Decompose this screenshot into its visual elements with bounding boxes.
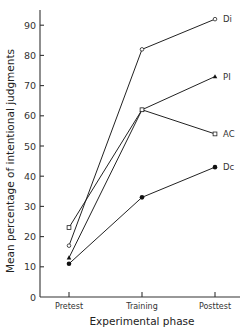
y-tick-label: 30: [24, 201, 36, 212]
y-tick-label: 50: [24, 141, 36, 152]
x-tick-label: Posttest: [199, 302, 231, 311]
filled-circle-marker: [213, 165, 218, 170]
y-tick-label: 60: [24, 110, 36, 121]
series-label: Dc: [223, 162, 235, 172]
y-tick-label: 40: [24, 171, 36, 182]
series-label: AC: [223, 129, 235, 139]
series-di: Di: [67, 14, 232, 247]
open-square-marker: [67, 226, 71, 230]
open-circle-marker: [213, 17, 217, 21]
line-chart: 0102030405060708090 PretestTrainingPostt…: [0, 0, 244, 333]
filled-triangle-marker: [67, 255, 72, 259]
y-tick-label: 20: [24, 231, 36, 242]
y-axis-title: Mean percentage of intentional judgments: [4, 49, 16, 273]
filled-triangle-marker: [213, 74, 218, 78]
filled-circle-marker: [67, 261, 72, 266]
y-tick-label: 0: [30, 292, 36, 303]
series-label: PI: [223, 72, 231, 82]
y-tick-label: 90: [24, 20, 36, 31]
y-axis: 0102030405060708090: [24, 10, 44, 303]
y-tick-label: 80: [24, 50, 36, 61]
series-group: DiPIACDc: [67, 14, 235, 266]
x-tick-label: Training: [125, 302, 158, 311]
open-circle-marker: [140, 48, 144, 52]
series-line: [69, 77, 215, 258]
series-line: [69, 167, 215, 264]
x-axis-title: Experimental phase: [89, 315, 194, 327]
open-circle-marker: [67, 244, 71, 248]
series-line: [69, 19, 215, 246]
series-line: [69, 110, 215, 228]
series-label: Di: [223, 14, 232, 24]
series-pi: PI: [67, 72, 231, 260]
open-square-marker: [213, 132, 217, 136]
series-dc: Dc: [67, 162, 235, 266]
y-tick-label: 70: [24, 80, 36, 91]
x-axis: PretestTrainingPosttest: [40, 292, 240, 311]
open-square-marker: [140, 108, 144, 112]
y-tick-label: 10: [24, 261, 36, 272]
x-tick-label: Pretest: [55, 302, 83, 311]
filled-circle-marker: [140, 195, 145, 200]
